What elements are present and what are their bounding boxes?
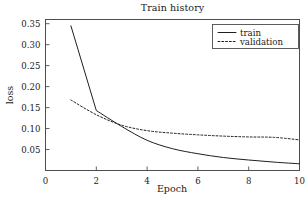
x-tick-label: 2 bbox=[94, 176, 99, 186]
chart-figure: Train history 0246810 0.050.100.150.200.… bbox=[0, 0, 308, 199]
y-tick-label: 0.25 bbox=[21, 61, 40, 71]
y-axis-tick-labels: 0.050.100.150.200.250.300.35 bbox=[21, 19, 40, 155]
y-tick-label: 0.10 bbox=[21, 124, 40, 134]
y-tick-label: 0.35 bbox=[21, 19, 40, 29]
y-tick-label: 0.15 bbox=[21, 103, 40, 113]
chart-legend: train validation bbox=[213, 25, 299, 49]
x-tick-label: 0 bbox=[43, 176, 48, 186]
y-tick-label: 0.05 bbox=[21, 145, 40, 155]
x-tick-label: 4 bbox=[144, 176, 150, 186]
series-line-validation bbox=[71, 100, 300, 140]
plot-canvas: 0246810 0.050.100.150.200.250.300.35 Epo… bbox=[0, 0, 308, 199]
x-axis-label: Epoch bbox=[157, 183, 187, 194]
x-tick-label: 10 bbox=[294, 176, 305, 186]
x-tick-label: 8 bbox=[246, 176, 251, 186]
x-tick-label: 6 bbox=[195, 176, 200, 186]
y-axis-ticks bbox=[46, 24, 50, 150]
x-axis-ticks bbox=[46, 167, 300, 171]
y-tick-label: 0.30 bbox=[21, 40, 40, 50]
legend-label-validation: validation bbox=[239, 37, 283, 47]
y-axis-label: loss bbox=[4, 86, 15, 105]
y-tick-label: 0.20 bbox=[21, 82, 40, 92]
